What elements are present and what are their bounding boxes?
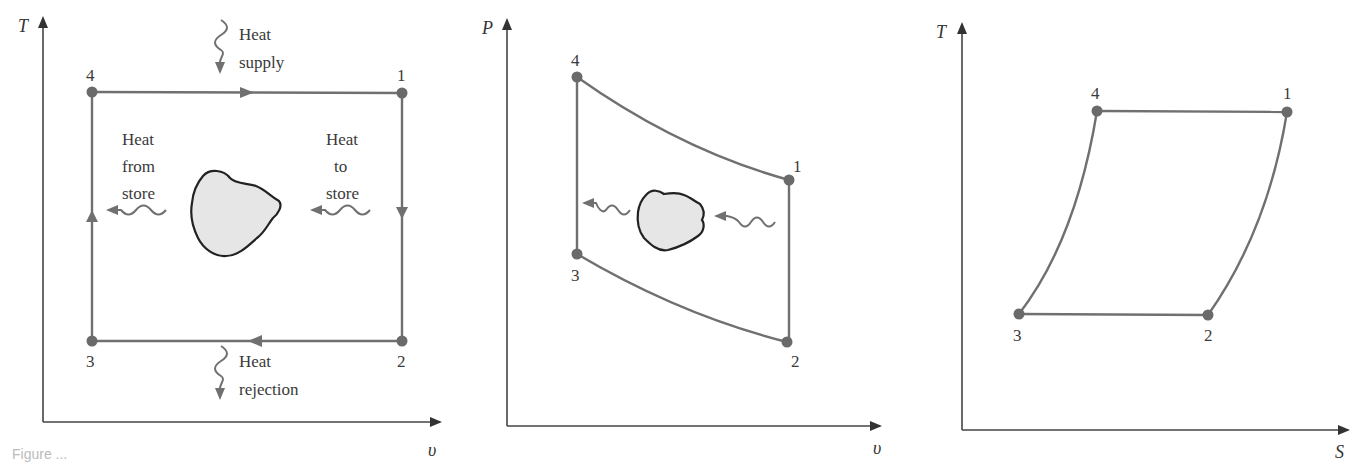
process-2-3 (577, 254, 787, 342)
process-3-2 (1019, 314, 1208, 315)
state-point-1 (784, 175, 795, 186)
heat-from-store-label: Heat (122, 130, 154, 149)
ts-diagram: T S 4 1 2 3 (936, 22, 1348, 462)
heat-to-store-arrow-icon (716, 216, 775, 227)
point-label-2: 2 (791, 352, 800, 371)
heat-supply-label: supply (239, 53, 285, 72)
heat-rejection-arrow-icon (215, 346, 227, 398)
pv-diagram: P υ 4 1 2 3 (481, 18, 881, 458)
process-3-4 (1019, 111, 1097, 314)
point-label-1: 1 (1283, 84, 1292, 103)
thermal-store-blob (638, 191, 704, 251)
state-point-4 (1092, 106, 1103, 117)
direction-arrow-icon (86, 210, 98, 222)
heat-to-store-label: store (326, 184, 359, 203)
state-point-2 (782, 337, 793, 348)
point-label-3: 3 (86, 352, 95, 371)
v-axis-label: υ (428, 440, 436, 460)
direction-arrow-icon (248, 335, 262, 347)
state-point-4 (572, 72, 583, 83)
heat-from-store-arrow-icon (108, 206, 166, 215)
process-2-1 (1208, 112, 1287, 315)
point-label-3: 3 (1013, 326, 1022, 345)
point-label-3: 3 (571, 266, 580, 285)
point-label-1: 1 (793, 157, 802, 176)
thermal-store-blob (191, 171, 280, 256)
s-axis-label: S (1335, 442, 1344, 462)
heat-from-store-arrow-icon (584, 203, 630, 215)
heat-rejection-label: rejection (239, 380, 299, 399)
state-point-3 (572, 249, 583, 260)
point-label-4: 4 (571, 51, 580, 70)
state-point-3 (87, 336, 98, 347)
heat-supply-label: Heat (239, 25, 271, 44)
state-point-2 (1203, 310, 1214, 321)
point-label-2: 2 (397, 352, 406, 371)
state-point-2 (397, 336, 408, 347)
heat-rejection-label: Heat (239, 352, 271, 371)
heat-supply-arrow-icon (215, 20, 227, 72)
point-label-1: 1 (397, 66, 406, 85)
process-4-1 (1097, 111, 1287, 112)
tv-diagram: T υ 4 1 2 3 Heat supply Heat rejection H… (18, 16, 440, 460)
point-label-2: 2 (1204, 326, 1213, 345)
v-axis-label: υ (873, 438, 881, 458)
state-point-1 (1282, 107, 1293, 118)
point-label-4: 4 (1091, 84, 1100, 103)
process-4-1 (577, 77, 789, 180)
heat-to-store-label: Heat (326, 130, 358, 149)
t-axis-label: T (936, 22, 948, 42)
direction-arrow-icon (396, 207, 408, 219)
t-axis-label: T (18, 16, 30, 36)
state-point-4 (87, 87, 98, 98)
direction-arrow-icon (240, 87, 254, 98)
point-label-4: 4 (86, 66, 95, 85)
state-point-3 (1014, 309, 1025, 320)
state-point-1 (397, 88, 408, 99)
heat-to-store-label: to (334, 157, 347, 176)
figure-canvas: T υ 4 1 2 3 Heat supply Heat rejection H… (0, 0, 1360, 468)
heat-to-store-arrow-icon (312, 206, 370, 215)
heat-from-store-label: from (122, 157, 155, 176)
p-axis-label: P (481, 18, 493, 38)
heat-from-store-label: store (122, 184, 155, 203)
figure-caption-fragment: Figure ... (12, 446, 67, 462)
